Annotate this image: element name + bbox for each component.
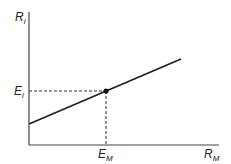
y-axis-label-main: R [15, 10, 24, 24]
expected-point [103, 88, 108, 93]
y-axis-label-sub: i [24, 17, 26, 26]
point-x-label-sub: M [106, 154, 113, 163]
point-y-label-main: E [14, 84, 22, 98]
diagram-canvas [0, 0, 231, 164]
point-x-label-main: E [98, 147, 106, 161]
point-y-label-sub: i [22, 91, 24, 100]
point-x-label: EM [98, 148, 113, 163]
x-axis-label-main: R [204, 147, 213, 161]
point-y-label: Ei [14, 85, 24, 100]
x-axis-label-sub: M [213, 154, 220, 163]
y-axis-label: Ri [15, 11, 25, 26]
x-axis-label: RM [204, 148, 219, 163]
